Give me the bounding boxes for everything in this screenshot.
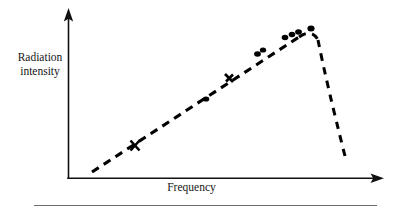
datapoint-dot-7 (289, 32, 296, 37)
radiation-intensity-figure: Radiation intensity Frequency (0, 0, 407, 214)
datapoint-dot-9 (307, 26, 314, 32)
y-axis-label-line1: Radiation (11, 51, 69, 65)
datapoint-dot-6 (282, 35, 289, 40)
curve-rising-segment (92, 37, 299, 172)
datapoint-dot-2 (203, 96, 210, 101)
curve-falling-segment (318, 40, 345, 156)
y-axis-label: Radiation intensity (11, 51, 69, 78)
y-axis-label-line2: intensity (11, 65, 69, 79)
datapoint-dot-5 (260, 47, 266, 52)
x-axis-label: Frequency (167, 181, 216, 193)
x-axis-label-wrapper: Frequency (0, 181, 407, 193)
curve-peak-segment (299, 33, 318, 40)
datapoint-dot-4 (254, 51, 261, 56)
datapoint-dot-8 (295, 29, 302, 35)
datapoint-cross-3 (225, 74, 233, 82)
